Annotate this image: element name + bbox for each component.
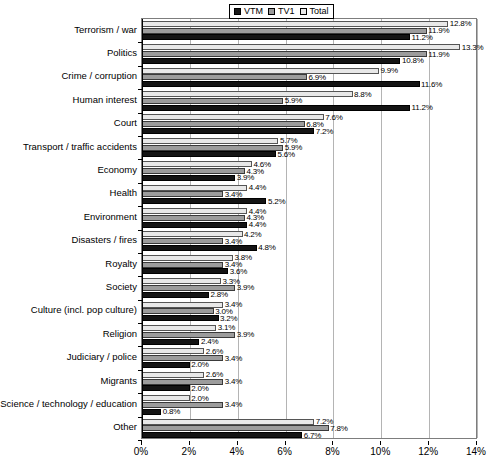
bar-vtm — [142, 198, 266, 204]
y-axis-category-label: Other — [113, 422, 137, 432]
bar-tv1 — [142, 74, 307, 80]
bar-value-label: 2.8% — [211, 291, 228, 299]
bar-tv1 — [142, 51, 427, 57]
bar-total — [142, 114, 324, 120]
bar-value-label: 4.8% — [258, 244, 275, 252]
bar-total — [142, 68, 379, 74]
bar-total — [142, 161, 252, 167]
y-axis-category-label: Crime / corruption — [62, 71, 138, 81]
bar-tv1 — [142, 168, 245, 174]
bar-total — [142, 395, 190, 401]
x-tick-mark — [237, 441, 238, 445]
y-axis-category-label: Court — [114, 118, 137, 128]
bar-value-label: 6.7% — [304, 432, 321, 440]
bar-vtm — [142, 245, 257, 251]
bar-vtm — [142, 268, 228, 274]
bar-value-label: 3.4% — [225, 401, 242, 409]
x-tick-label: 10% — [370, 446, 390, 458]
bar-vtm — [142, 409, 161, 415]
y-axis-line — [142, 19, 143, 438]
bar-value-label: 9.9% — [380, 67, 397, 75]
bar-value-label: 5.2% — [268, 198, 285, 206]
legend-label-vtm: VTM — [244, 6, 263, 17]
bar-total — [142, 419, 314, 425]
y-axis-category-label: Judiciary / police — [67, 352, 137, 362]
x-tick-label: 0% — [134, 446, 148, 458]
x-axis-labels: 0%2%4%6%8%10%12%14% — [141, 441, 477, 459]
y-axis-category-label: Transport / traffic accidents — [23, 142, 137, 152]
y-axis-category-label: Migrants — [101, 376, 137, 386]
x-tick-mark — [428, 441, 429, 445]
bar-total — [142, 91, 353, 97]
x-tick-label: 4% — [229, 446, 243, 458]
bar-value-label: 0.8% — [163, 408, 180, 416]
bar-value-label: 4.4% — [249, 184, 266, 192]
bar-total — [142, 44, 460, 50]
bar-total — [142, 21, 448, 27]
bar-value-label: 3.4% — [225, 355, 242, 363]
bar-vtm — [142, 34, 410, 40]
legend-item-vtm: VTM — [234, 6, 263, 17]
bar-value-label: 10.8% — [402, 57, 424, 65]
bar-value-label: 8.8% — [354, 91, 371, 99]
bar-vtm — [142, 175, 235, 181]
bar-chart: VTM TV1 Total Terrorism / warPoliticsCri… — [0, 0, 490, 472]
square-swatch-icon — [234, 8, 241, 15]
bar-vtm — [142, 339, 199, 345]
x-tick-mark — [285, 441, 286, 445]
bar-tv1 — [142, 332, 235, 338]
bar-vtm — [142, 58, 400, 64]
bar-value-label: 3.2% — [220, 315, 237, 323]
y-axis-category-label: Science / technology / education — [0, 399, 137, 409]
x-tick-label: 2% — [182, 446, 196, 458]
legend-item-total: Total — [300, 6, 329, 17]
y-axis-category-label: Royalty — [105, 259, 137, 269]
x-tick-label: 6% — [277, 446, 291, 458]
bar-value-label: 11.6% — [421, 81, 442, 89]
x-tick-label: 8% — [325, 446, 339, 458]
bar-tv1 — [142, 355, 223, 361]
chart-legend: VTM TV1 Total — [229, 4, 334, 19]
bar-value-label: 5.6% — [278, 151, 295, 159]
bar-value-label: 2.0% — [191, 361, 208, 369]
bar-value-label: 7.6% — [325, 114, 342, 122]
bar-value-label: 7.8% — [330, 425, 347, 433]
bar-vtm — [142, 128, 314, 134]
x-tick-mark — [380, 441, 381, 445]
x-tick-mark — [189, 441, 190, 445]
bar-value-label: 11.9% — [428, 51, 449, 59]
bar-total — [142, 255, 233, 261]
bar-vtm — [142, 105, 410, 111]
y-axis-category-label: Religion — [103, 329, 137, 339]
bar-value-label: 3.9% — [237, 331, 254, 339]
y-axis-category-label: Terrorism / war — [74, 25, 137, 35]
y-axis-category-label: Culture (incl. pop culture) — [31, 305, 137, 315]
bar-vtm — [142, 432, 302, 438]
x-tick-mark — [141, 441, 142, 445]
bar-value-label: 4.4% — [249, 221, 266, 229]
bar-total — [142, 372, 204, 378]
bar-tv1 — [142, 262, 223, 268]
bar-value-label: 3.9% — [237, 284, 254, 292]
bar-value-label: 7.2% — [316, 128, 333, 136]
bar-tv1 — [142, 308, 214, 314]
bar-tv1 — [142, 402, 223, 408]
bar-vtm — [142, 385, 190, 391]
bar-total — [142, 325, 216, 331]
square-swatch-icon — [300, 8, 307, 15]
x-tick-mark — [476, 441, 477, 445]
y-axis-category-label: Human interest — [73, 95, 137, 105]
bar-tv1 — [142, 98, 283, 104]
y-axis-category-label: Disasters / fires — [72, 235, 137, 245]
bar-vtm — [142, 222, 247, 228]
bar-vtm — [142, 151, 276, 157]
bar-tv1 — [142, 145, 283, 151]
bar-value-label: 3.6% — [230, 268, 247, 276]
bar-total — [142, 138, 278, 144]
bar-total — [142, 278, 221, 284]
legend-item-tv1: TV1 — [268, 6, 295, 17]
bar-value-label: 2.4% — [201, 338, 218, 346]
bar-total — [142, 348, 204, 354]
x-tick-label: 14% — [466, 446, 486, 458]
bar-vtm — [142, 315, 219, 321]
